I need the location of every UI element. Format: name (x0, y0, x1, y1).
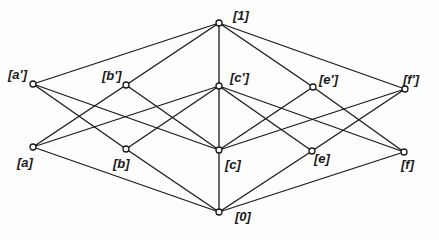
node-label-e: [e] (314, 152, 330, 165)
node-ap (30, 81, 36, 87)
edges-group (33, 23, 405, 212)
edge-one-ap (33, 23, 219, 84)
edge-fp-e (312, 89, 405, 151)
node-label-one: [1] (233, 9, 249, 22)
node-c (216, 147, 222, 153)
node-label-cp: [c'] (230, 71, 249, 84)
node-ep (310, 84, 316, 90)
edge-cp-a (33, 86, 219, 147)
node-label-ap: [a'] (8, 68, 27, 81)
node-label-f: [f] (401, 158, 414, 171)
node-f (401, 149, 407, 155)
node-label-zero: [0] (235, 210, 251, 223)
node-b (123, 146, 129, 152)
lattice-graph (0, 0, 439, 240)
node-label-bp: [b'] (102, 69, 122, 82)
node-label-fp: [f'] (403, 73, 419, 86)
edge-fp-c (219, 89, 405, 150)
node-label-ep: [e'] (319, 73, 338, 86)
node-label-a: [a] (17, 156, 33, 169)
lattice-diagram: [1][a'][b'][c'][e'][f'][a][b][c][e][f][0… (0, 0, 439, 240)
node-one (216, 20, 222, 26)
node-cp (216, 83, 222, 89)
node-label-b: [b] (113, 157, 130, 170)
edge-zero-b (126, 149, 219, 212)
node-zero (216, 209, 222, 215)
node-bp (123, 82, 129, 88)
edge-one-bp (126, 23, 219, 85)
node-label-c: [c] (225, 158, 241, 171)
edge-zero-f (219, 152, 404, 212)
node-a (30, 144, 36, 150)
